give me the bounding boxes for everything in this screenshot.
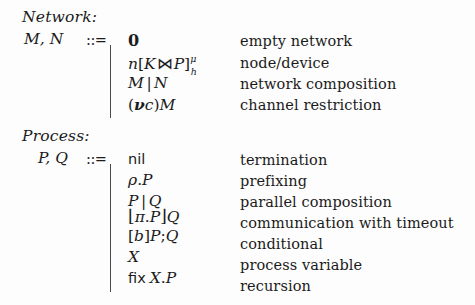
bnf-grammar-figure: Network: M, N ::= 0 empty network n[K⋈P]… bbox=[0, 0, 475, 305]
floor-right-bracket: ⌋ bbox=[160, 206, 167, 226]
symbol-fix: fix bbox=[128, 270, 146, 286]
production-network-3: (νc)M bbox=[128, 97, 175, 114]
floor-left-bracket: ⌊ bbox=[128, 206, 135, 226]
symbol-process-p-timeout: P bbox=[150, 208, 160, 226]
symbol-node: n bbox=[128, 55, 138, 73]
symbol-interface: K bbox=[144, 55, 156, 73]
symbol-nil: nil bbox=[128, 151, 145, 167]
symbol-boolean: b bbox=[134, 227, 144, 245]
description-process-4: conditional bbox=[240, 237, 323, 252]
node-annotations: μh bbox=[190, 55, 199, 75]
description-network-0: empty network bbox=[240, 34, 352, 49]
superscript-mu: μ bbox=[190, 53, 196, 64]
section-header-network: Network: bbox=[22, 8, 97, 26]
symbol-process: P bbox=[174, 55, 184, 73]
section-header-process: Process: bbox=[22, 127, 90, 145]
subscript-h: h bbox=[191, 66, 197, 77]
description-network-1: node/device bbox=[240, 56, 329, 71]
production-network-1: n[K⋈P]μh bbox=[128, 55, 199, 75]
symbol-then-branch: P bbox=[150, 227, 160, 245]
production-network-0: 0 bbox=[128, 33, 139, 50]
description-process-1: prefixing bbox=[240, 174, 307, 189]
symbol-bowtie: ⋈ bbox=[156, 55, 174, 73]
symbol-q-timeout: Q bbox=[167, 208, 180, 226]
production-process-0: nil bbox=[128, 152, 145, 168]
production-process-5: X bbox=[128, 250, 139, 266]
alternation-bar-process bbox=[110, 164, 111, 292]
production-process-3: ⌊π.P⌋Q bbox=[128, 208, 180, 226]
symbol-else-branch: Q bbox=[166, 227, 179, 245]
production-process-1: ρ.P bbox=[128, 173, 153, 189]
description-process-2: parallel composition bbox=[240, 195, 392, 210]
symbol-bound-variable: X bbox=[146, 269, 161, 287]
production-process-6: fixX.P bbox=[128, 271, 176, 287]
symbol-variable-x: X bbox=[128, 248, 139, 266]
description-process-3: communication with timeout bbox=[240, 216, 454, 231]
description-network-2: network composition bbox=[240, 77, 396, 92]
nonterminal-network: M, N bbox=[24, 30, 63, 48]
nonterminal-process: P, Q bbox=[38, 149, 68, 167]
alternation-bar-network bbox=[110, 45, 111, 118]
symbol-body-process: P bbox=[166, 269, 176, 287]
defeq-process: ::= bbox=[86, 151, 106, 167]
description-process-0: termination bbox=[240, 153, 327, 168]
defeq-network: ::= bbox=[86, 32, 106, 48]
symbol-m-restricted: M bbox=[160, 96, 176, 114]
production-process-4: [b]P;Q bbox=[128, 229, 178, 245]
description-network-3: channel restriction bbox=[240, 98, 382, 113]
symbol-rho: ρ bbox=[128, 171, 137, 189]
symbol-channel: c bbox=[145, 96, 154, 114]
symbol-process-p: P bbox=[142, 171, 152, 189]
production-network-2: M|N bbox=[128, 76, 168, 92]
symbol-m: M bbox=[128, 74, 144, 92]
description-process-5: process variable bbox=[240, 258, 362, 273]
symbol-empty-network: 0 bbox=[128, 31, 139, 50]
symbol-nu: ν bbox=[134, 95, 145, 114]
symbol-pi: π bbox=[135, 208, 145, 226]
symbol-n: N bbox=[154, 74, 168, 92]
symbol-parallel: | bbox=[144, 74, 154, 92]
description-process-6: recursion bbox=[240, 279, 311, 294]
